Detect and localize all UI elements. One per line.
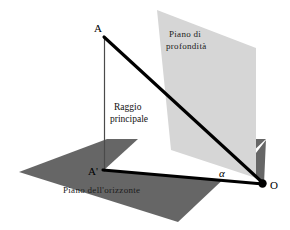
horizon-plane-label: Piano dell'orizzonte [63,185,140,195]
point-o-marker [258,179,266,187]
point-label-o: O [270,179,278,191]
point-label-a: A [94,22,102,34]
angle-label-alpha: α [219,167,225,179]
depth-plane-label-line2: profondità [166,41,207,51]
diagram-canvas: Piano di profondità Piano dell'orizzonte… [0,0,290,230]
principal-ray-label-line2: principale [110,114,148,124]
principal-ray-label-line1: Raggio [114,102,142,112]
point-label-a-prime: A' [88,165,98,177]
depth-plane-label-line1: Piano di [169,29,201,39]
perspective-diagram: Piano di profondità Piano dell'orizzonte… [0,0,290,230]
